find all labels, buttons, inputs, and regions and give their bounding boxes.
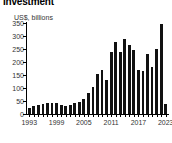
bar bbox=[51, 103, 54, 114]
x-tick-mark bbox=[129, 114, 130, 117]
bar bbox=[96, 74, 99, 114]
bar bbox=[78, 102, 81, 114]
bar bbox=[105, 80, 108, 114]
bar bbox=[69, 105, 72, 114]
x-tick-mark bbox=[70, 114, 71, 117]
bar bbox=[110, 52, 113, 114]
bar bbox=[37, 105, 40, 114]
bar bbox=[73, 103, 76, 114]
x-tick-mark bbox=[66, 114, 67, 117]
x-tick-mark bbox=[57, 114, 58, 117]
x-tick-mark bbox=[143, 114, 144, 117]
x-tick-label: 1993 bbox=[21, 119, 37, 127]
x-tick-mark bbox=[116, 114, 117, 117]
bar bbox=[160, 24, 163, 114]
x-tick-mark bbox=[75, 114, 76, 117]
bar bbox=[60, 105, 63, 114]
x-tick-mark bbox=[98, 114, 99, 117]
bar bbox=[64, 106, 67, 114]
bar bbox=[82, 99, 85, 114]
x-tick-mark bbox=[38, 114, 39, 117]
x-tick-mark bbox=[161, 114, 162, 117]
x-tick-mark bbox=[52, 114, 53, 117]
x-tick-label: 1999 bbox=[49, 119, 65, 127]
bar bbox=[55, 103, 58, 114]
x-tick-mark bbox=[166, 114, 167, 117]
x-tick-mark bbox=[79, 114, 80, 117]
bar bbox=[164, 104, 167, 114]
bar bbox=[137, 70, 140, 114]
x-tick-mark bbox=[93, 114, 94, 117]
x-tick-mark bbox=[148, 114, 149, 117]
bar bbox=[132, 50, 135, 114]
x-tick-label: 2011 bbox=[104, 119, 119, 127]
bar bbox=[87, 93, 90, 114]
bar bbox=[146, 54, 149, 114]
x-tick-mark bbox=[138, 114, 139, 117]
bar bbox=[119, 52, 122, 114]
bar bbox=[128, 45, 131, 114]
bar bbox=[42, 104, 45, 114]
x-tick-label: 2005 bbox=[76, 119, 92, 127]
bar bbox=[151, 67, 154, 114]
x-tick-label: 2017 bbox=[131, 119, 147, 127]
plot-area bbox=[27, 23, 168, 114]
x-tick-mark bbox=[43, 114, 44, 117]
chart-figure: Investment US$, billions 050100150200250… bbox=[0, 0, 172, 143]
bar bbox=[123, 39, 126, 114]
x-tick-mark bbox=[102, 114, 103, 117]
bar bbox=[155, 49, 158, 114]
x-tick-mark bbox=[29, 114, 30, 117]
bar-series bbox=[27, 23, 168, 114]
bar bbox=[46, 103, 49, 114]
x-tick-mark bbox=[125, 114, 126, 117]
x-tick-mark bbox=[61, 114, 62, 117]
x-tick-mark bbox=[157, 114, 158, 117]
bar bbox=[32, 106, 35, 114]
x-tick-mark bbox=[107, 114, 108, 117]
bar bbox=[101, 70, 104, 114]
x-tick-mark bbox=[47, 114, 48, 117]
x-tick-mark bbox=[34, 114, 35, 117]
x-tick-mark bbox=[134, 114, 135, 117]
x-tick-mark bbox=[88, 114, 89, 117]
bar bbox=[92, 87, 95, 114]
bar bbox=[114, 42, 117, 114]
x-tick-mark bbox=[152, 114, 153, 117]
bar bbox=[142, 71, 145, 114]
x-tick-mark bbox=[120, 114, 121, 117]
y-axis-ticks: 050100150200250300350 bbox=[0, 0, 24, 143]
x-tick-label: 2023 bbox=[158, 119, 172, 127]
x-tick-mark bbox=[84, 114, 85, 117]
x-tick-mark bbox=[111, 114, 112, 117]
